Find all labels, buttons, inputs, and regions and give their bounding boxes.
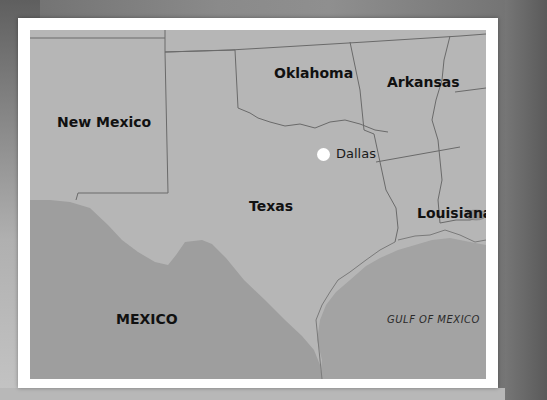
water-label-gulf-of-mexico: GULF OF MEXICO [387,314,480,325]
map-canvas: New Mexico Oklahoma Arkansas Texas Louis… [30,30,486,379]
city-marker-dallas[interactable] [317,148,330,161]
state-label-arkansas: Arkansas [387,74,460,90]
background-right-panel [505,0,547,400]
state-label-oklahoma: Oklahoma [274,65,353,81]
state-label-louisiana: Louisiana [417,205,486,221]
city-label-dallas: Dallas [336,146,376,161]
background-bottom [0,388,547,400]
country-label-mexico: MEXICO [116,311,178,327]
state-label-texas: Texas [249,198,293,214]
state-label-new-mexico: New Mexico [57,114,151,130]
